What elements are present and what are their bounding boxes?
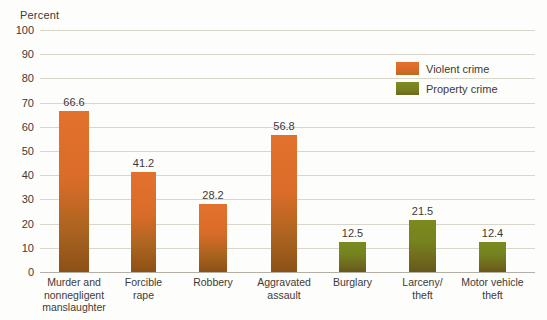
legend-item-violent-crime: Violent crime bbox=[396, 62, 498, 75]
bar: 21.5 bbox=[409, 220, 436, 272]
legend-swatch-property-crime bbox=[396, 82, 419, 95]
y-axis-title: Percent bbox=[20, 9, 59, 21]
x-axis-category-label: Motor vehicle theft bbox=[443, 276, 543, 301]
bar-value-label: 28.2 bbox=[202, 189, 223, 201]
y-axis-tick-label: 100 bbox=[16, 24, 34, 36]
chart-legend: Violent crime Property crime bbox=[396, 62, 498, 102]
bar-chart: Percent 010203040506070809010066.641.228… bbox=[0, 0, 547, 320]
legend-label-violent-crime: Violent crime bbox=[426, 63, 489, 75]
gridline bbox=[40, 54, 535, 55]
bar-value-label: 56.8 bbox=[273, 120, 294, 132]
y-axis-tick-label: 40 bbox=[22, 169, 34, 181]
legend-item-property-crime: Property crime bbox=[396, 82, 498, 95]
bar: 12.5 bbox=[339, 242, 366, 272]
bar-value-label: 41.2 bbox=[133, 157, 154, 169]
gridline bbox=[40, 103, 535, 104]
bar-value-label: 12.4 bbox=[482, 227, 503, 239]
bar: 41.2 bbox=[131, 172, 156, 272]
bar-value-label: 66.6 bbox=[63, 96, 84, 108]
bar: 56.8 bbox=[271, 135, 297, 272]
legend-swatch-violent-crime bbox=[396, 62, 419, 75]
bar: 12.4 bbox=[479, 242, 506, 272]
legend-label-property-crime: Property crime bbox=[426, 83, 498, 95]
bar: 28.2 bbox=[199, 204, 227, 272]
bar: 66.6 bbox=[59, 111, 89, 272]
y-axis-tick-label: 60 bbox=[22, 121, 34, 133]
bar-value-label: 21.5 bbox=[412, 205, 433, 217]
y-axis-tick-label: 20 bbox=[22, 218, 34, 230]
y-axis-tick-label: 80 bbox=[22, 72, 34, 84]
y-axis-tick-label: 10 bbox=[22, 242, 34, 254]
gridline bbox=[40, 272, 535, 273]
y-axis-tick-label: 90 bbox=[22, 48, 34, 60]
gridline bbox=[40, 30, 535, 31]
bar-value-label: 12.5 bbox=[342, 227, 363, 239]
y-axis-tick-label: 30 bbox=[22, 193, 34, 205]
y-axis-tick-label: 50 bbox=[22, 145, 34, 157]
y-axis-tick-label: 70 bbox=[22, 97, 34, 109]
